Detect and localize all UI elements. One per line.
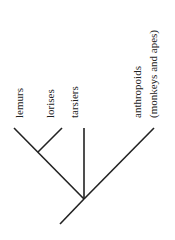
label-lorises: lorises — [44, 89, 56, 118]
label-anthropoids: anthropoids — [131, 66, 143, 118]
branch-anthropoids — [84, 128, 154, 199]
root-branch — [60, 199, 84, 224]
cladogram: lemurs lorises tarsiers anthropoids (mon… — [0, 0, 175, 240]
label-tarsiers: tarsiers — [68, 86, 80, 118]
label-anthropoids-sub: (monkeys and apes) — [147, 30, 160, 118]
branch-lemurs — [14, 128, 84, 199]
label-lemurs: lemurs — [13, 88, 25, 118]
branch-lorises — [38, 128, 62, 152]
